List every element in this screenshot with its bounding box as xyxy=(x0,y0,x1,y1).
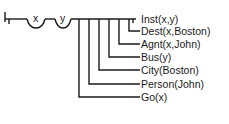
predicate-city: City(Boston) xyxy=(141,64,199,76)
variable-y-arc: y xyxy=(55,12,71,28)
branch-dest xyxy=(129,19,140,31)
predicate-person: Person(John) xyxy=(141,78,204,90)
logic-tree-diagram: x y Inst(x,y) Dest(x,Boston) Agnt(x,John… xyxy=(0,0,229,124)
branch-person xyxy=(89,19,140,84)
variable-x-arc: x xyxy=(27,12,45,28)
predicate-inst: Inst(x,y) xyxy=(141,13,178,25)
root-marker xyxy=(5,12,27,24)
variable-x-label: x xyxy=(33,12,39,24)
predicate-bus: Bus(y) xyxy=(141,51,171,63)
predicate-agnt: Agnt(x,John) xyxy=(141,38,201,50)
branch-bus xyxy=(109,19,140,57)
variable-y-label: y xyxy=(60,12,66,24)
predicate-dest: Dest(x,Boston) xyxy=(141,25,210,37)
predicate-go: Go(x) xyxy=(141,91,167,103)
